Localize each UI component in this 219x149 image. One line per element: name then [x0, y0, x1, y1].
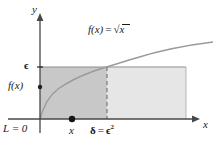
- limit-epsilon-delta-figure: y x ϵ f(x) f(x)=√x L = 0 x δ=ϵ2: [0, 0, 219, 149]
- epsilon-band-shading: [107, 67, 186, 119]
- y-axis-arrowhead: [37, 13, 44, 21]
- curve-equation-label: f(x)=√x: [88, 24, 124, 35]
- square-root-group: √x: [113, 24, 124, 35]
- y-axis-label: y: [32, 4, 37, 15]
- delta-value-exponent: 2: [111, 123, 115, 131]
- limit-value-label: L = 0: [3, 123, 27, 134]
- delta-band-shading: [40, 67, 107, 119]
- x-axis-arrowhead: [192, 116, 200, 123]
- epsilon-tick-label: ϵ: [24, 60, 29, 71]
- x-sample-point-marker: [69, 116, 75, 122]
- curve-equation-function: f(x): [88, 23, 103, 35]
- delta-symbol: δ: [90, 124, 96, 136]
- delta-relation-label: δ=ϵ2: [90, 124, 114, 136]
- function-value-tick-label: f(x): [8, 80, 23, 91]
- x-point-label: x: [69, 125, 74, 136]
- x-axis-label: x: [203, 119, 208, 130]
- radical-overbar: [122, 24, 130, 25]
- function-value-tick-marker: [38, 85, 42, 89]
- curve-equation-equals: =: [103, 23, 113, 35]
- delta-equals: =: [96, 124, 106, 136]
